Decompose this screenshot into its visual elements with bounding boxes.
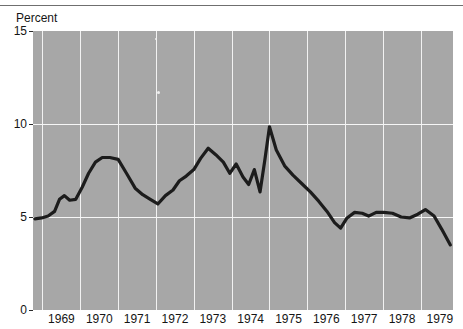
- x-tick-label-1976: 1976: [306, 312, 346, 326]
- y-tick-label-0: 0: [1, 304, 27, 316]
- y-tick-mark-5: [29, 217, 33, 218]
- x-tick-label-1975: 1975: [268, 312, 308, 326]
- y-tick-label-15: 15: [1, 25, 27, 37]
- x-tick-label-1972: 1972: [155, 312, 195, 326]
- top-divider-rule: [0, 5, 463, 6]
- x-tick-label-1977: 1977: [344, 312, 384, 326]
- y-tick-mark-10: [29, 124, 33, 125]
- y-tick-label-10: 10: [1, 118, 27, 130]
- x-tick-label-1974: 1974: [231, 312, 271, 326]
- x-tick-label-1969: 1969: [41, 312, 81, 326]
- y-tick-mark-15: [29, 31, 33, 32]
- x-tick-label-1970: 1970: [79, 312, 119, 326]
- y-tick-label-5: 5: [1, 211, 27, 223]
- y-axis-ticks: 051015: [0, 0, 27, 329]
- x-tick-label-1971: 1971: [117, 312, 157, 326]
- x-tick-label-1978: 1978: [382, 312, 422, 326]
- x-tick-label-1979: 1979: [420, 312, 460, 326]
- data-series-line: [33, 31, 453, 310]
- plot-area: [33, 31, 453, 310]
- y-tick-mark-0: [29, 310, 33, 311]
- x-tick-label-1973: 1973: [193, 312, 233, 326]
- chart-figure: Percent 051015 1969197019711972197319741…: [0, 0, 463, 329]
